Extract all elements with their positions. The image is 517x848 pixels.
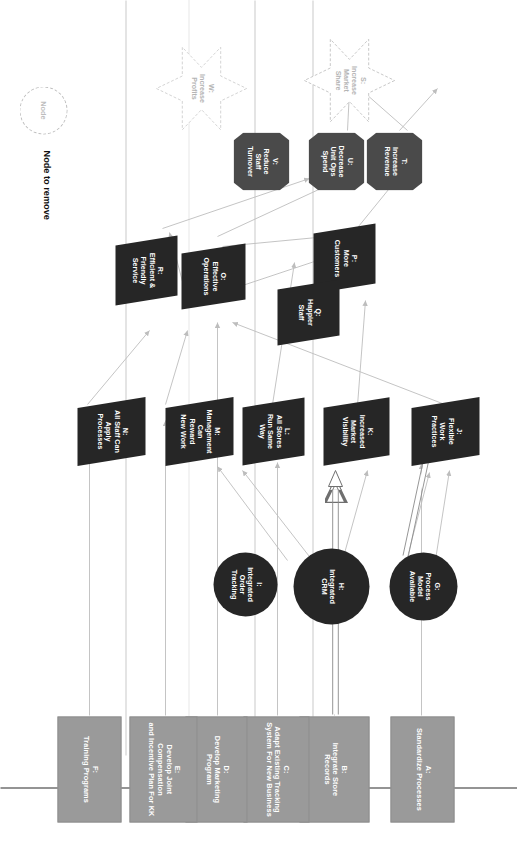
node-S[interactable]: S: Increase Market Share <box>301 32 397 128</box>
node-C-label: C: Adapt Existing Tracking System For Ne… <box>263 717 289 821</box>
node-R-label: R: Efficient & Friendly Service <box>129 240 163 300</box>
node-J-label: J: Flexible Work Practices <box>428 402 462 460</box>
node-F-label: F: Training Programs <box>80 717 97 821</box>
node-A-label: A: Standardize Processes <box>413 717 430 821</box>
node-E[interactable]: E: Develop Joint Compensation and Incent… <box>129 716 197 822</box>
node-O[interactable]: O: Effective Operations <box>181 243 245 309</box>
node-S-label: S: Increase Market Share <box>332 32 365 128</box>
node-L[interactable]: L: All Stores Run Same Way <box>242 397 304 465</box>
node-T-label: T: Increase Revenue <box>381 132 406 190</box>
legend-caption: Node to remove <box>41 150 51 219</box>
node-N[interactable]: N: All Staff Can Apply Processes <box>77 397 145 466</box>
node-U[interactable]: U: Decrease Unit Ops Spend <box>308 132 364 190</box>
node-G-label: G: Process Model Available <box>406 552 440 620</box>
node-I[interactable]: I: Integrated Order Tracking <box>213 552 277 616</box>
legend-node-sample: Node <box>19 86 67 134</box>
node-Q[interactable]: Q: Happier Staff <box>277 279 339 345</box>
node-D-label: D: Develop Marketing Program <box>203 717 229 821</box>
node-R[interactable]: R: Efficient & Friendly Service <box>115 235 177 305</box>
node-L-label: L: All Stores Run Same Way <box>256 402 290 460</box>
node-C[interactable]: C: Adapt Existing Tracking System For Ne… <box>243 716 309 822</box>
diagram-canvas: S: Increase Market Share W: Increase Pro… <box>0 0 517 848</box>
node-A[interactable]: A: Standardize Processes <box>390 716 454 822</box>
node-V[interactable]: V: Reduce Staff Turnover <box>233 132 289 190</box>
node-I-label: I: Integrated Order Tracking <box>228 552 262 616</box>
legend-node-label: Node <box>39 101 48 119</box>
node-H[interactable]: H: Integrated CRM <box>293 548 369 624</box>
node-M[interactable]: M: Management Can Reward New Work <box>165 397 233 466</box>
node-K-label: K: Increased Market Visibility <box>339 402 373 460</box>
node-H-label: H: Integrated CRM <box>318 548 343 624</box>
diagram-plane: S: Increase Market Share W: Increase Pro… <box>0 0 517 848</box>
node-V-label: V: Reduce Staff Turnover <box>244 132 278 190</box>
node-B-label: B: Integrate Store Records <box>321 717 347 821</box>
node-Q-label: Q: Happier Staff <box>295 284 320 340</box>
node-U-label: U: Decrease Unit Ops Spend <box>319 132 353 190</box>
node-G[interactable]: G: Process Model Available <box>389 552 457 620</box>
node-P-label: P: More Customers <box>331 228 356 288</box>
node-K[interactable]: K: Increased Market Visibility <box>323 397 389 465</box>
node-E-label: E: Develop Joint Compensation and Incent… <box>146 717 181 821</box>
node-M-label: M: Management Can Reward New Work <box>178 402 220 460</box>
node-J[interactable]: J: Flexible Work Practices <box>411 397 479 466</box>
node-B[interactable]: B: Integrate Store Records <box>299 716 369 822</box>
node-O-label: O: Effective Operations <box>200 248 225 304</box>
node-W-label: W: Increase Profits <box>188 40 213 136</box>
node-W[interactable]: W: Increase Profits <box>153 40 249 136</box>
node-N-label: N: All Staff Can Apply Processes <box>94 402 128 460</box>
node-F[interactable]: F: Training Programs <box>57 716 121 822</box>
node-T[interactable]: T: Increase Revenue <box>366 132 422 190</box>
